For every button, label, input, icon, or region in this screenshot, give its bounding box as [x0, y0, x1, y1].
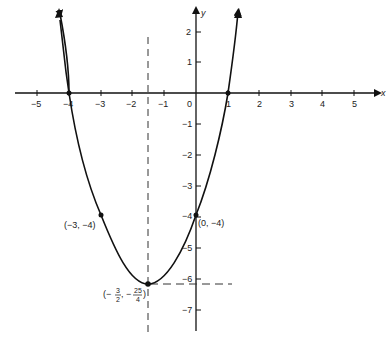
- y-ticks: [196, 32, 201, 310]
- label-point-neg3-neg4: (−3, −4): [64, 220, 96, 230]
- vertex-frac2-num: 25: [134, 287, 142, 294]
- y-tick-label: −4: [182, 211, 192, 221]
- point-neg3-neg4: [99, 213, 104, 218]
- parabola-curve: [60, 12, 238, 284]
- point-0-neg4: [194, 213, 199, 218]
- y-tick-label: −1: [182, 119, 192, 129]
- x-tick-label: 2: [257, 99, 262, 109]
- y-axis-label: y: [200, 8, 206, 18]
- y-tick-label: −6: [182, 274, 192, 284]
- y-tick-label: 2: [186, 27, 191, 37]
- x-tick-labels: −5 −4 −3 −2 −1 0 1 2 3 4 5: [31, 99, 357, 109]
- x-tick-label: 4: [320, 99, 325, 109]
- root-point-right: [226, 91, 231, 96]
- x-tick-label: −1: [158, 99, 168, 109]
- y-tick-label: 1: [187, 57, 192, 67]
- vertex-point: [145, 281, 151, 287]
- x-tick-label: 3: [289, 99, 294, 109]
- x-tick-label: −5: [31, 99, 41, 109]
- x-tick-label: −2: [126, 99, 136, 109]
- vertex-label-open: (−: [103, 289, 111, 299]
- vertex-frac2-den: 4: [136, 296, 140, 303]
- y-tick-label: −2: [182, 150, 192, 160]
- x-tick-label: −3: [95, 99, 105, 109]
- label-point-0-neg4: (0, −4): [198, 218, 224, 228]
- vertex-label-close: ): [143, 289, 146, 299]
- x-axis-label: x: [380, 88, 386, 98]
- y-tick-label: −7: [182, 305, 192, 315]
- parabola-graph: x y −5 −4 −3 −2 −1 0 1 2 3 4 5: [0, 0, 389, 337]
- x-tick-label: 5: [352, 99, 357, 109]
- parabola-left-arm: [60, 20, 69, 93]
- left-arm-arrowhead-icon: [55, 8, 63, 18]
- x-tick-label: 0: [187, 99, 192, 109]
- vertex-label-mid: , −: [121, 289, 131, 299]
- vertex-label: (− 3 2 , − 25 4 ): [103, 287, 146, 303]
- y-tick-labels: 2 1 −1 −2 −3 −4 −5 −6 −7: [182, 27, 192, 315]
- y-tick-label: −3: [182, 181, 192, 191]
- root-point-left: [67, 91, 72, 96]
- vertex-frac1-num: 3: [116, 287, 120, 294]
- vertex-frac1-den: 2: [116, 296, 120, 303]
- right-arm-arrowhead-icon: [234, 8, 242, 18]
